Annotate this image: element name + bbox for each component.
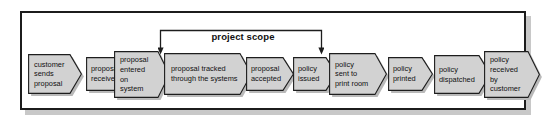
step-shape: [28, 54, 82, 94]
process-step-customer-sends-proposal[interactable]: customer sends proposal: [28, 54, 82, 94]
process-step-policy-printed[interactable]: policy printed: [388, 57, 433, 91]
process-step-proposal-tracked-through-the-systems[interactable]: proposal tracked through the systems: [164, 53, 252, 95]
process-step-policy-sent-to-print-room[interactable]: policy sent to print room: [329, 53, 387, 95]
process-flow-row: customer sends proposal proposal receive…: [0, 0, 546, 127]
step-shape: [484, 51, 540, 98]
process-step-policy-received-by-customer[interactable]: policy received by customer: [484, 51, 540, 98]
step-shape: [388, 57, 433, 91]
process-step-policy-dispatched[interactable]: policy dispatched: [434, 55, 491, 94]
step-shape: [246, 57, 294, 91]
step-shape: [329, 53, 387, 95]
process-step-proposal-accepted[interactable]: proposal accepted: [246, 57, 294, 91]
process-step-proposal-entered-on-system[interactable]: proposal entered on system: [114, 51, 170, 98]
step-shape: [114, 51, 170, 98]
diagram-canvas: project scope customer sends proposal: [0, 0, 546, 127]
step-shape: [164, 53, 252, 95]
step-shape: [434, 55, 491, 94]
